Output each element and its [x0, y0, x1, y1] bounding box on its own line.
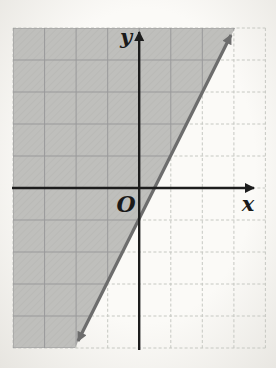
- origin-label: O: [116, 191, 135, 217]
- y-axis-label: y: [119, 24, 134, 49]
- x-axis-label: x: [241, 191, 255, 216]
- figure-canvas: y x O: [0, 0, 276, 368]
- inequality-graph-figure: y x O: [0, 0, 276, 368]
